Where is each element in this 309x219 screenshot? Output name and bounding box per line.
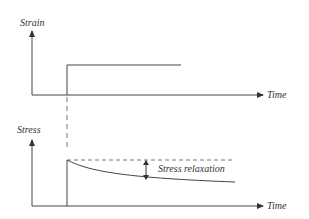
diagram-graphics bbox=[0, 0, 309, 219]
stress-relaxation-annotation: Stress relaxation bbox=[158, 163, 225, 174]
stress-axis-label: Stress bbox=[17, 124, 41, 135]
strain-time-axis-label: Time bbox=[267, 89, 286, 100]
stress-time-axis-label: Time bbox=[267, 200, 286, 211]
strain-axis-label: Strain bbox=[20, 17, 44, 28]
stress-relaxation-diagram: Strain Time Stress Time Stress relaxatio… bbox=[0, 0, 309, 219]
strain-step-curve bbox=[67, 65, 181, 95]
